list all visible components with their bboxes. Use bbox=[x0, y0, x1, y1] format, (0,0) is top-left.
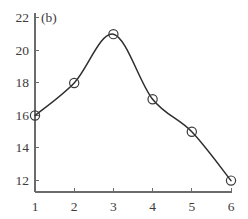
y-tick-label: 18 bbox=[16, 75, 30, 90]
chart-figure: 22 20 18 16 14 12 1 2 3 4 5 6 (b) bbox=[0, 0, 248, 219]
y-tick-label: 20 bbox=[16, 43, 30, 58]
y-tick-label: 14 bbox=[16, 140, 30, 155]
y-tick-label: 12 bbox=[16, 173, 30, 188]
x-tick-label: 5 bbox=[188, 199, 195, 214]
x-tick-label: 3 bbox=[110, 199, 117, 214]
x-tick-label: 6 bbox=[228, 199, 235, 214]
y-tick-label: 16 bbox=[16, 108, 30, 123]
data-point-markers bbox=[30, 30, 235, 186]
y-tick-label: 22 bbox=[16, 10, 30, 25]
x-tick-label: 2 bbox=[71, 199, 78, 214]
panel-label: (b) bbox=[41, 10, 57, 25]
x-tick-label: 1 bbox=[32, 199, 39, 214]
line-chart: 22 20 18 16 14 12 1 2 3 4 5 6 (b) bbox=[0, 0, 248, 219]
x-tick-label: 4 bbox=[149, 199, 156, 214]
data-series-line bbox=[35, 34, 231, 181]
